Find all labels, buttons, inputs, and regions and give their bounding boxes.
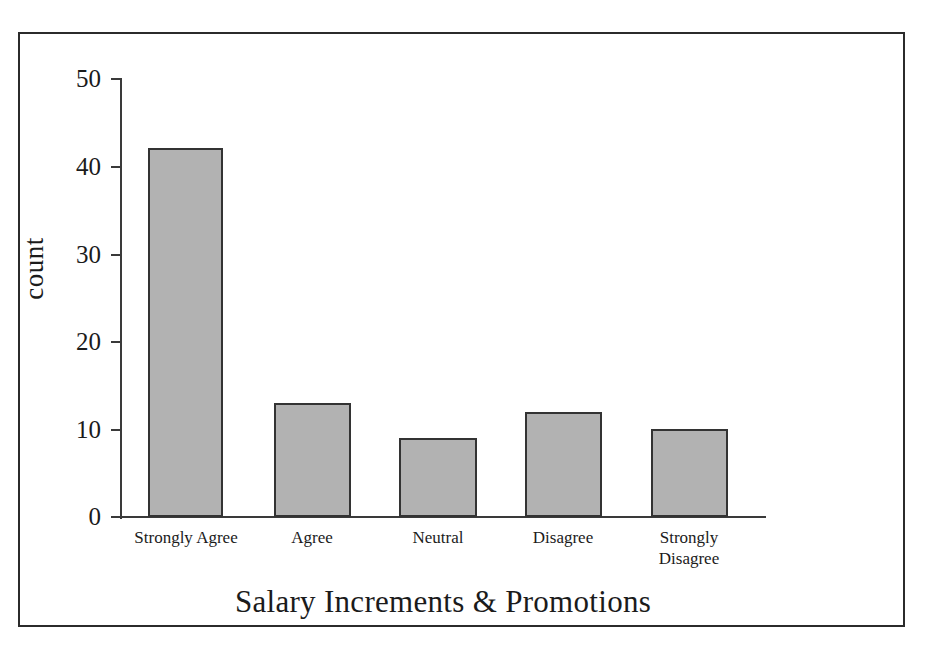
y-axis-line: [120, 78, 122, 519]
plot-area: 50 40 30 20 10 0 count Strongly Agree: [0, 0, 925, 654]
y-tick-label-0: 0: [49, 504, 101, 529]
y-tick-20: [111, 341, 121, 343]
x-tick-label-strongly-disagree: Strongly Disagree: [613, 527, 765, 569]
y-tick-10: [111, 429, 121, 431]
y-tick-label-10: 10: [49, 417, 101, 442]
cat-line-2: Disagree: [613, 548, 765, 569]
y-tick-label-20: 20: [49, 329, 101, 354]
chart-figure: 50 40 30 20 10 0 count Strongly Agree: [0, 0, 925, 654]
x-axis-title: Salary Increments & Promotions: [120, 585, 766, 619]
y-tick-label-50: 50: [49, 66, 101, 91]
y-tick-30: [111, 254, 121, 256]
y-tick-label-40: 40: [49, 154, 101, 179]
bar-agree[interactable]: [274, 403, 351, 517]
cat-line-1: Strongly: [613, 527, 765, 548]
bar-strongly-agree[interactable]: [148, 148, 223, 517]
y-tick-50: [111, 78, 121, 80]
bar-strongly-disagree[interactable]: [651, 429, 728, 517]
y-tick-40: [111, 166, 121, 168]
bar-neutral[interactable]: [399, 438, 477, 517]
y-axis-title: count: [21, 214, 48, 324]
bar-disagree[interactable]: [525, 412, 602, 517]
y-tick-label-30: 30: [49, 242, 101, 267]
